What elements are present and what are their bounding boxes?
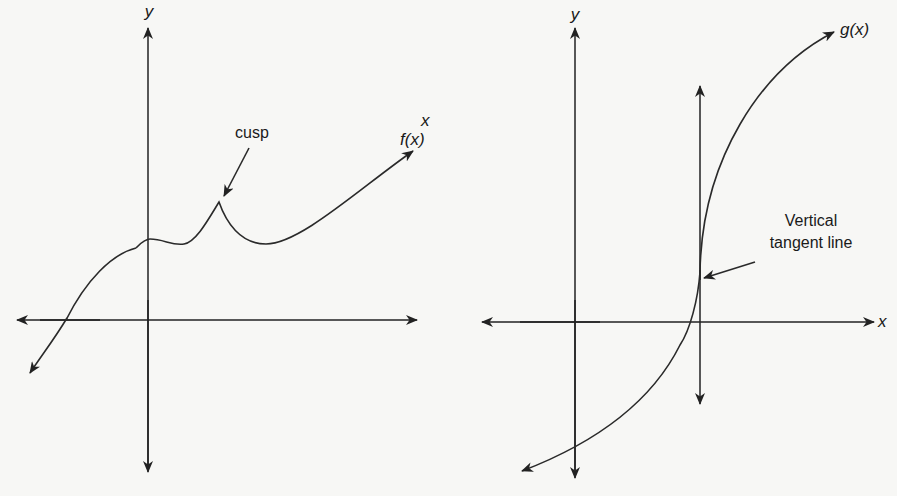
- figure-canvas: y x f(x) cusp y x g(x) Vertical tangent …: [0, 0, 897, 496]
- left-x-axis-label: x: [421, 111, 430, 131]
- tangent-pointer-arrow: [704, 262, 755, 278]
- g-of-x-label: g(x): [840, 20, 869, 40]
- vertical-tangent-annotation-line2: tangent line: [770, 234, 853, 252]
- g-of-x-lower-branch: [522, 272, 700, 471]
- cusp-pointer-arrow: [224, 148, 249, 196]
- cusp-annotation: cusp: [235, 124, 269, 142]
- right-x-axis-label: x: [878, 312, 887, 332]
- right-graph: [482, 28, 874, 478]
- vertical-tangent-annotation-line1: Vertical: [785, 212, 837, 230]
- f-of-x-label: f(x): [400, 130, 425, 150]
- left-y-axis-label: y: [145, 2, 154, 22]
- f-of-x-left-tail: [30, 318, 67, 373]
- f-of-x-curve: [66, 151, 413, 320]
- left-graph: [17, 28, 417, 472]
- diagram-svg: [0, 0, 897, 496]
- right-y-axis-label: y: [571, 5, 580, 25]
